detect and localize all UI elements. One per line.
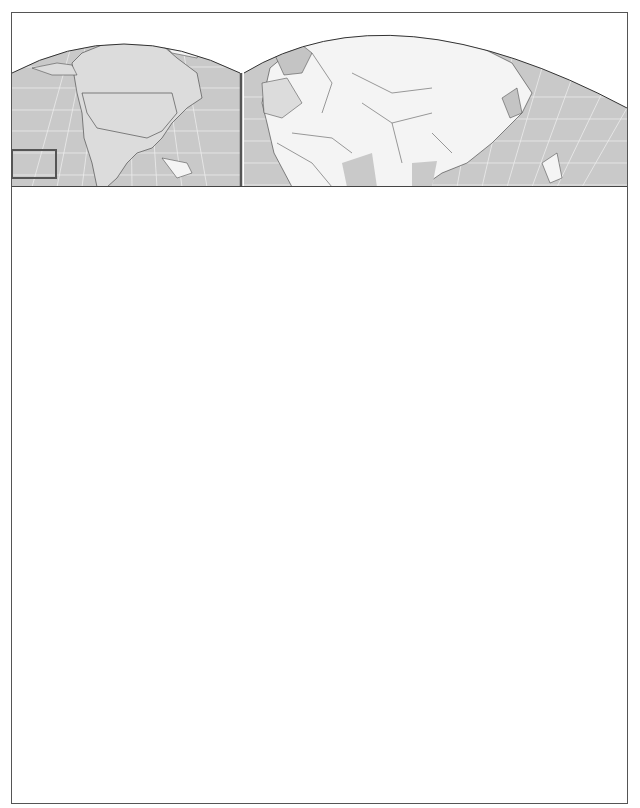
map-figure <box>11 12 628 804</box>
map-1995 <box>12 13 627 187</box>
panel-1995 <box>12 13 627 187</box>
